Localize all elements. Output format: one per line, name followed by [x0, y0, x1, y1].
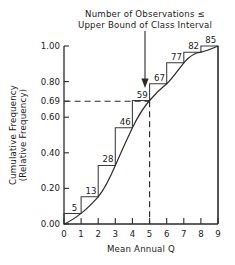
step-label-5: 5: [72, 203, 77, 213]
x-tick-label-8: 8: [198, 229, 203, 239]
x-tick-label-7: 7: [181, 229, 186, 239]
step-label-13: 13: [86, 186, 97, 196]
y-tick-marks: [64, 46, 69, 224]
x-tick-marks: [64, 218, 218, 224]
chart-canvas: Number of Observations ≤ Upper Bound of …: [0, 0, 235, 265]
x-tick-label-4: 4: [130, 229, 135, 239]
x-axis-label: Mean Annual Q: [107, 244, 175, 254]
y-tick-label-1: 0.20: [41, 183, 60, 193]
step-label-67: 67: [154, 73, 165, 83]
y-axis-label-line-2: (Relative Frequency): [18, 89, 28, 182]
step-label-46: 46: [120, 117, 131, 127]
x-tick-label-1: 1: [78, 229, 83, 239]
step-label-82: 82: [188, 41, 199, 51]
step-label-59: 59: [137, 90, 148, 100]
annotation-title-line-2: Upper Bound of Class Interval: [78, 20, 212, 30]
x-tick-label-5: 5: [147, 229, 152, 239]
annotation-arrow-head: [141, 79, 148, 89]
y-tick-label-6: 1.00: [41, 41, 60, 51]
y-axis-label-line-1: Cumulative Frequency: [8, 85, 18, 185]
step-label-77: 77: [171, 52, 182, 62]
step-label-85: 85: [205, 35, 216, 45]
annotation-title-line-1: Number of Observations ≤: [85, 9, 205, 19]
x-tick-label-3: 3: [113, 229, 118, 239]
y-tick-label-5: 0.80: [41, 77, 60, 87]
y-tick-label-3: 0.60: [41, 112, 60, 122]
step-label-28: 28: [103, 154, 114, 164]
y-tick-label-0: 0.00: [41, 219, 60, 229]
x-tick-label-9: 9: [215, 229, 220, 239]
x-tick-label-2: 2: [95, 229, 100, 239]
x-tick-label-0: 0: [61, 229, 66, 239]
y-tick-label-2: 0.40: [41, 148, 60, 158]
y-tick-label-4: 0.69: [41, 96, 60, 106]
x-tick-label-6: 6: [164, 229, 169, 239]
step-outline: [64, 46, 218, 224]
cumulative-frequency-chart: Number of Observations ≤ Upper Bound of …: [0, 0, 235, 265]
